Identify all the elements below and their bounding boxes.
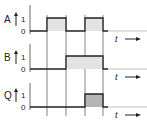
time-label: t	[115, 110, 118, 120]
pulse-fill	[85, 94, 103, 107]
signal-label: Q	[4, 90, 12, 101]
high-label: 1	[21, 53, 26, 62]
pulse-fill	[66, 56, 103, 69]
right-arrow-icon	[136, 75, 141, 79]
low-label: 0	[21, 103, 26, 112]
pulse-fill	[85, 18, 103, 31]
signal-a: A 1 0 t	[4, 5, 147, 44]
signal-label: B	[4, 52, 11, 63]
low-label: 0	[21, 65, 26, 74]
high-label: 1	[21, 15, 26, 24]
signal-b: B 1 0 t	[4, 44, 147, 82]
up-arrow-icon	[14, 88, 18, 92]
right-arrow-icon	[136, 113, 141, 117]
up-arrow-icon	[14, 50, 18, 54]
signal-label: A	[4, 14, 11, 25]
right-arrow-icon	[136, 37, 141, 41]
time-label: t	[115, 72, 118, 82]
time-label: t	[115, 34, 118, 44]
up-arrow-icon	[14, 12, 18, 16]
high-label: 1	[21, 91, 26, 100]
low-label: 0	[21, 27, 26, 36]
pulse-fill	[47, 18, 66, 31]
timing-diagram: A 1 0 t B 1 0 t Q 1 0 t	[0, 0, 147, 124]
signal-q: Q 1 0 t	[4, 83, 147, 120]
